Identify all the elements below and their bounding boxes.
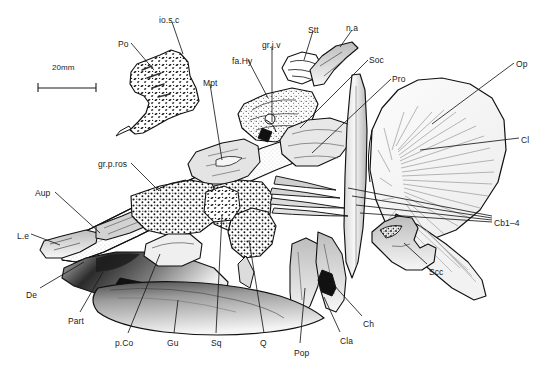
label-op: Op xyxy=(516,60,528,69)
label-pop: Pop xyxy=(294,349,309,358)
label-pro: Pro xyxy=(392,75,406,84)
label-po: Po xyxy=(118,40,129,49)
label-q: Q xyxy=(260,339,267,348)
label-cb1-4: Cb1–4 xyxy=(494,219,520,228)
bone-opercle-op xyxy=(368,78,506,240)
leader-line-gr-p-ros xyxy=(131,163,159,191)
label-part: Part xyxy=(68,317,84,326)
label-gr-p-ros: gr.p.ros xyxy=(98,160,127,169)
bone-coronoid-pco xyxy=(144,234,202,266)
label-mpt: Mpt xyxy=(203,79,217,88)
label-aup: Aup xyxy=(35,189,50,198)
label-stt: Stt xyxy=(308,26,319,35)
scale-bar-label: 20mm xyxy=(52,64,75,72)
label-cl: Cl xyxy=(521,136,529,145)
label-gu: Gu xyxy=(167,339,179,348)
label-scc: Scc xyxy=(429,268,443,277)
label-fa-hy: fa.Hy xyxy=(232,57,252,66)
label-gr-j-v: gr.j.v xyxy=(262,41,281,50)
scale-bar xyxy=(38,83,96,92)
label-ch: Ch xyxy=(363,320,374,329)
bone-branchials-cb1-4 xyxy=(270,176,348,216)
label-de: De xyxy=(26,291,37,300)
bone-quadrate-q xyxy=(228,208,276,288)
label-cla: Cla xyxy=(340,337,353,346)
leader-line-aup xyxy=(55,192,100,233)
label-io-s-c: io.s.c xyxy=(159,16,179,25)
bone-interopercle-cla xyxy=(316,232,346,312)
anatomical-figure: io.s.cPofa.Hygr.j.vSttn.aSocProOpClMptgr… xyxy=(0,0,546,371)
label-l-e: L.e xyxy=(17,232,29,241)
label-n-a: n.a xyxy=(346,24,358,33)
label-soc: Soc xyxy=(369,56,384,65)
bone-postorbital-po xyxy=(116,50,199,136)
leader-line-io-s-c xyxy=(172,22,183,54)
label-p-co: p.Co xyxy=(115,339,133,348)
bone-gular-gu xyxy=(93,282,324,335)
label-sq: Sq xyxy=(211,339,222,348)
bone-neural-arch-na xyxy=(310,42,358,86)
